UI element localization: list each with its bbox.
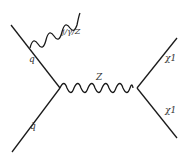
chi-bottom-label: χ1: [164, 105, 176, 115]
radiation-label: j/γ/Z: [60, 27, 81, 36]
antiquark-line: [12, 88, 60, 152]
feynman-diagram: q q̄ Z j/γ/Z χ1 χ1: [0, 0, 187, 162]
z-propagator-line: [60, 84, 133, 93]
chi-top-label: χ1: [164, 53, 176, 63]
antiquark-label: q̄: [30, 121, 36, 131]
z-boson-label: Z: [95, 72, 103, 82]
chi-top-line: [137, 38, 177, 88]
quark-label: q: [29, 54, 35, 64]
